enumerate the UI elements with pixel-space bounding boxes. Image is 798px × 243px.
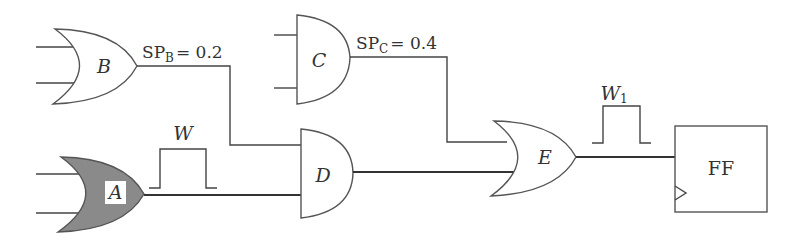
pulse-w1-waveform bbox=[592, 106, 651, 143]
pulse-w-label: W bbox=[173, 122, 194, 144]
gate-a-label: A bbox=[107, 181, 123, 203]
sp-c-annotation: SPC= 0.4 bbox=[356, 33, 437, 56]
gate-b-or-shape bbox=[53, 29, 137, 104]
gate-d-label: D bbox=[314, 164, 330, 186]
pulse-w-waveform bbox=[149, 149, 217, 188]
gate-a: A bbox=[36, 157, 144, 232]
pulse-w: W bbox=[149, 122, 217, 188]
gate-d: D bbox=[301, 129, 353, 218]
gate-e-or-shape bbox=[491, 121, 576, 196]
flip-flop: FF bbox=[675, 126, 767, 212]
gate-c-label: C bbox=[312, 49, 327, 71]
sp-b-annotation: SPB= 0.2 bbox=[142, 42, 223, 65]
gate-b-label: B bbox=[96, 55, 111, 77]
gate-c: C bbox=[274, 15, 350, 104]
flip-flop-label: FF bbox=[708, 157, 734, 179]
gate-e-label: E bbox=[537, 146, 552, 168]
gate-b: B bbox=[36, 29, 137, 104]
wire-c-to-e bbox=[350, 57, 507, 142]
wire-b-to-d bbox=[137, 66, 301, 145]
pulse-w1-label: W1 bbox=[600, 82, 627, 106]
gate-a-or-shape bbox=[58, 157, 144, 232]
circuit-diagram: B SPB= 0.2 A W C SPC= 0.4 D E bbox=[0, 0, 798, 243]
pulse-w1: W1 bbox=[592, 82, 651, 143]
gate-e: E bbox=[491, 121, 576, 196]
